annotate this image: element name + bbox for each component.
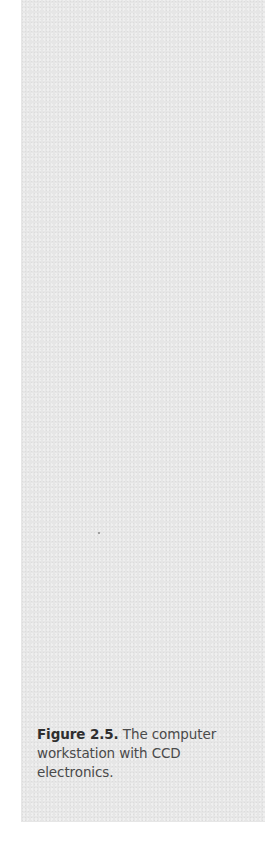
figure-label: Figure 2.5. [37,726,119,742]
print-speck [98,532,100,534]
figure-caption: Figure 2.5. The computer workstation wit… [37,725,242,782]
document-page: Figure 2.5. The computer workstation wit… [0,0,265,862]
figure-sidebar-panel [21,0,265,822]
